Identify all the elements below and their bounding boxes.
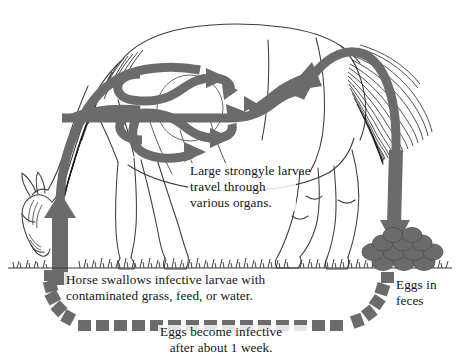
caption-feces: Eggs in feces [396,277,437,309]
caption-migration-line3: various organs. [190,195,311,211]
caption-infective-line2: after about 1 week. [160,340,282,356]
caption-ingestion-line2: contaminated grass, feed, or water. [66,288,265,304]
caption-feces-line1: Eggs in [396,277,437,293]
caption-migration-line2: travel through [190,179,311,195]
caption-ingestion-line1: Horse swallows infective larvae with [66,272,265,288]
caption-migration-line1: Large strongyle larvae [190,163,311,179]
caption-infective-line1: Eggs become infective [160,324,282,340]
head-shading [29,200,42,250]
caption-migration: Large strongyle larvae travel through va… [190,163,311,211]
manure-pile [362,228,443,271]
diagram-canvas: Large strongyle larvae travel through va… [0,0,461,360]
caption-ingestion: Horse swallows infective larvae with con… [66,272,265,304]
upper-loop [118,74,212,101]
caption-infective: Eggs become infective after about 1 week… [160,324,282,356]
caption-feces-line2: feces [396,293,437,309]
migration-arrows [60,52,396,270]
